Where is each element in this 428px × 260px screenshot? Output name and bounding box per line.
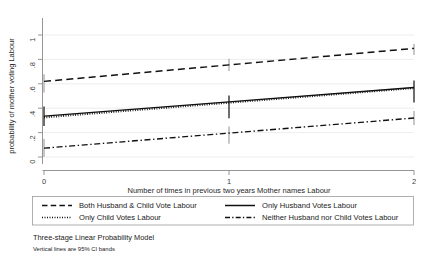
legend-label-only-child: Only Child Votes Labour xyxy=(79,213,161,222)
x-tick-label-2: 2 xyxy=(412,177,416,186)
chart-figure: 1 .8 .6 .4 .2 0 probability of mother vo… xyxy=(0,0,428,260)
legend-label-only-husband: Only Husband Votes Labour xyxy=(262,201,357,210)
legend-label-both-husband-child: Both Husband & Child Vote Labour xyxy=(79,201,197,210)
y-tick-label-04: .4 xyxy=(28,111,37,117)
note-model: Three-stage Linear Probability Model xyxy=(33,233,155,242)
y-tick-label-08: .8 xyxy=(28,62,37,68)
y-axis-title: probability of mother voting Labour xyxy=(7,38,16,154)
y-tick-label-0: 0 xyxy=(28,160,37,164)
y-tick-label-06: .6 xyxy=(28,86,37,92)
probability-line-chart: 1 .8 .6 .4 .2 0 probability of mother vo… xyxy=(0,0,428,260)
legend-label-neither: Neither Husband nor Child Votes Labour xyxy=(262,213,399,222)
x-tick-label-0: 0 xyxy=(42,177,46,186)
y-tick-label-02: .2 xyxy=(28,135,37,141)
x-axis-title: Number of times in previous two years Mo… xyxy=(127,186,331,195)
y-tick-label-1: 1 xyxy=(28,38,37,42)
note-ci: Vertical lines are 95% CI bands xyxy=(33,246,115,252)
